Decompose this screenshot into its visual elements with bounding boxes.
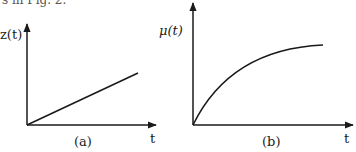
y-label-b: μ(t) [159, 23, 183, 38]
x-label-b: t [344, 131, 349, 146]
caption-b: (b) [262, 134, 280, 149]
linear-curve-a [27, 73, 138, 125]
x-label-a: t [150, 131, 155, 146]
y-label-a: z(t) [0, 27, 22, 42]
panel-b-axes [193, 3, 353, 125]
saturating-curve-b [193, 45, 323, 125]
caption-a: (a) [74, 134, 92, 149]
